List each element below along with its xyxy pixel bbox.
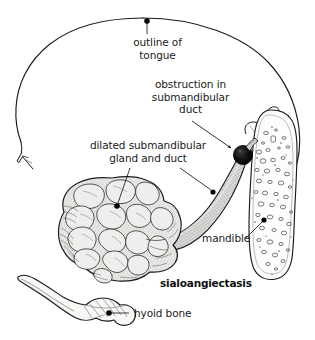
label-gland-line1: dilated submandibular (90, 139, 206, 151)
label-obstruction: obstruction in submandibular duct (118, 78, 263, 116)
label-obstruction-line3: duct (179, 103, 202, 115)
dot-duct (210, 189, 215, 194)
label-tongue-line1: outline of (133, 36, 182, 48)
hyoid-bone (18, 275, 136, 325)
leader-duct (180, 168, 211, 190)
label-obstruction-line2: submandibular (152, 91, 229, 103)
caption-sialoangiectasis: sialoangiectasis (160, 277, 252, 289)
dot-mandible (261, 217, 266, 222)
dot-gland (114, 203, 120, 209)
label-tongue-line2: tongue (139, 49, 175, 61)
dot-hyoid (106, 310, 112, 316)
label-mandible: mandible (202, 232, 250, 245)
submandibular-gland (58, 177, 181, 283)
label-obstruction-line1: obstruction in (155, 78, 226, 90)
mandible (245, 107, 297, 280)
label-dilated-gland-and-duct: dilated submandibular gland and duct (78, 139, 218, 164)
label-hyoid-bone: hyoid bone (134, 307, 191, 320)
dot-tongue (144, 18, 150, 24)
label-gland-line2: gland and duct (109, 152, 187, 164)
label-outline-of-tongue: outline of tongue (0, 36, 315, 61)
